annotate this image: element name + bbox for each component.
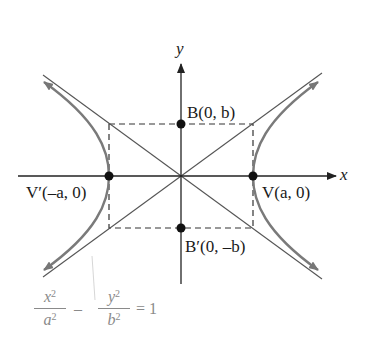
fraction-y-over-b: y2 b2 bbox=[98, 288, 130, 329]
hyperbola-equation: x2 a2 – y2 b2 = 1 bbox=[0, 0, 373, 352]
minus-operator: – bbox=[74, 300, 82, 318]
equation-rhs: = 1 bbox=[136, 300, 157, 318]
fraction-x-over-a: x2 a2 bbox=[34, 288, 66, 329]
hyperbola-diagram: y x B(0, b) B′(0, –b) V(a, 0) V′(–a, 0) … bbox=[0, 0, 373, 352]
